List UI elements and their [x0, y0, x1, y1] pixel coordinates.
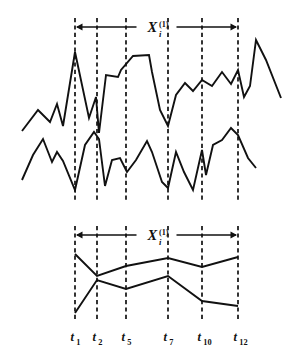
top-span-label-label: X: [147, 19, 158, 35]
time-series-segmentation-figure: X(1)i X(1)i t1t2t5t7t10t12: [0, 0, 306, 358]
tick-label-base-1: t: [71, 330, 75, 344]
tick-label-subscript-2: 2: [98, 338, 102, 347]
figure-container: X(1)i X(1)i t1t2t5t7t10t12: [0, 0, 306, 358]
tick-label-base-5: t: [198, 330, 202, 344]
tick-label-subscript-5: 10: [203, 338, 211, 347]
tick-label-base-4: t: [164, 330, 168, 344]
tick-label-base-2: t: [93, 330, 97, 344]
bottom-span-label-label: X: [147, 227, 158, 243]
figure-background: [0, 0, 306, 358]
tick-label-base-3: t: [122, 330, 126, 344]
tick-label-subscript-3: 5: [127, 338, 131, 347]
tick-label-base-6: t: [234, 330, 238, 344]
tick-label-subscript-4: 7: [169, 338, 173, 347]
tick-label-subscript-6: 12: [239, 338, 247, 347]
tick-label-subscript-1: 1: [76, 338, 80, 347]
